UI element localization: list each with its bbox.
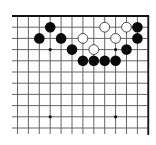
white-stone: [89, 45, 99, 55]
black-stone: [132, 33, 143, 44]
black-stone: [99, 56, 110, 67]
black-stone: [78, 56, 89, 67]
black-stone: [45, 22, 56, 33]
grid-lines: [12, 16, 148, 134]
black-stone: [132, 22, 143, 33]
white-stone: [78, 34, 88, 44]
black-stone: [89, 56, 100, 67]
star-point: [49, 115, 52, 118]
black-stone: [67, 44, 78, 55]
black-stone: [56, 33, 67, 44]
white-stone: [111, 34, 121, 44]
black-stone: [110, 56, 121, 67]
star-point: [114, 48, 117, 51]
white-stone: [122, 22, 132, 32]
black-stone: [34, 33, 45, 44]
star-point: [114, 115, 117, 118]
star-point: [49, 48, 52, 51]
go-board: [0, 0, 156, 145]
black-stone: [121, 44, 132, 55]
white-stone: [100, 22, 110, 32]
